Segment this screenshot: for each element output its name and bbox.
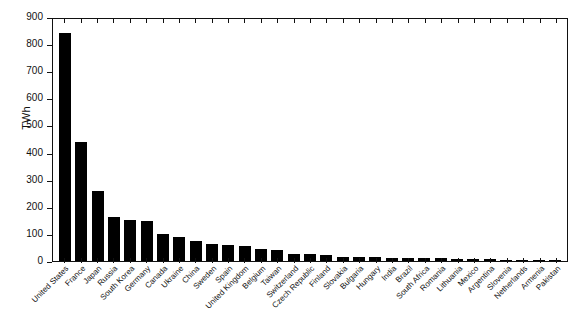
bar bbox=[271, 250, 283, 261]
bar bbox=[533, 260, 545, 261]
bar bbox=[255, 249, 267, 261]
bar-slot bbox=[302, 19, 318, 261]
x-axis-label-slot: Canada bbox=[154, 263, 170, 319]
bar-slot bbox=[155, 19, 171, 261]
bar bbox=[337, 257, 349, 261]
bar-slot bbox=[318, 19, 334, 261]
bar-slot bbox=[400, 19, 416, 261]
bar bbox=[190, 241, 202, 261]
bar-slot bbox=[384, 19, 400, 261]
bar bbox=[516, 260, 528, 261]
x-axis-label-slot: Germany bbox=[138, 263, 154, 319]
y-axis-tick-label: 400 bbox=[26, 147, 43, 158]
x-axis-labels: United StatesFranceJapanRussiaSouth Kore… bbox=[52, 263, 568, 319]
bar bbox=[75, 142, 87, 261]
bar bbox=[239, 246, 251, 261]
x-axis-label-slot: China bbox=[187, 263, 203, 319]
bar bbox=[304, 254, 316, 261]
bar-slot bbox=[122, 19, 138, 261]
y-axis-tick-label: 0 bbox=[37, 255, 43, 266]
bar-slot bbox=[139, 19, 155, 261]
bar bbox=[222, 245, 234, 261]
bar-slot bbox=[547, 19, 563, 261]
bar-slot bbox=[269, 19, 285, 261]
bar-slot bbox=[253, 19, 269, 261]
bar-slot bbox=[73, 19, 89, 261]
plot-area bbox=[52, 18, 568, 262]
x-axis-label-slot: United States bbox=[56, 263, 72, 319]
bar bbox=[549, 260, 561, 261]
bar-slot bbox=[367, 19, 383, 261]
bar-slot bbox=[204, 19, 220, 261]
bar-chart-figure: TWh 0100200300400500600700800900 United … bbox=[0, 0, 587, 319]
bar-slot bbox=[188, 19, 204, 261]
bar-slot bbox=[90, 19, 106, 261]
bar-slot bbox=[237, 19, 253, 261]
bar bbox=[386, 258, 398, 261]
x-axis-label-slot: Slovakia bbox=[335, 263, 351, 319]
x-axis-label-slot: Ukraine bbox=[171, 263, 187, 319]
bar bbox=[467, 259, 479, 261]
bar bbox=[402, 258, 414, 261]
bar-slot bbox=[335, 19, 351, 261]
y-axis-tick-label: 300 bbox=[26, 174, 43, 185]
bar-slot bbox=[416, 19, 432, 261]
bar bbox=[435, 258, 447, 261]
bar-slot bbox=[514, 19, 530, 261]
x-axis-label-slot: Lithuania bbox=[449, 263, 465, 319]
bar bbox=[320, 255, 332, 261]
y-axis-tick-label: 700 bbox=[26, 65, 43, 76]
bar-slot bbox=[498, 19, 514, 261]
bar-slot bbox=[220, 19, 236, 261]
bar-slot bbox=[449, 19, 465, 261]
y-axis-tick-label: 200 bbox=[26, 201, 43, 212]
bar-slot bbox=[433, 19, 449, 261]
bar-slot bbox=[531, 19, 547, 261]
bar bbox=[157, 234, 169, 261]
bar bbox=[173, 237, 185, 261]
y-axis-tick-label: 900 bbox=[26, 11, 43, 22]
x-axis-label-slot: United Kingdom bbox=[236, 263, 252, 319]
y-axis-tick-label: 600 bbox=[26, 92, 43, 103]
x-axis-label-slot: Pakistan bbox=[548, 263, 564, 319]
x-axis-tick-label: United States bbox=[30, 264, 70, 304]
y-axis-tick-label: 800 bbox=[26, 38, 43, 49]
bar-slot bbox=[465, 19, 481, 261]
bar bbox=[108, 217, 120, 261]
bar bbox=[369, 257, 381, 261]
bar-slot bbox=[171, 19, 187, 261]
x-axis-label-slot: Bulgaria bbox=[351, 263, 367, 319]
x-axis-label-slot: Czech Republic bbox=[302, 263, 318, 319]
y-axis-ticks: 0100200300400500600700800900 bbox=[0, 18, 52, 262]
bar bbox=[451, 259, 463, 261]
y-axis-tick-label: 500 bbox=[26, 119, 43, 130]
bar-series bbox=[53, 19, 567, 261]
bar-slot bbox=[57, 19, 73, 261]
bar bbox=[141, 221, 153, 261]
bar bbox=[484, 259, 496, 261]
bar bbox=[124, 220, 136, 261]
bar-slot bbox=[482, 19, 498, 261]
bar bbox=[59, 33, 71, 261]
bar bbox=[353, 257, 365, 261]
x-axis-label-slot: Netherlands bbox=[515, 263, 531, 319]
y-axis-tick-label: 100 bbox=[26, 228, 43, 239]
bar bbox=[418, 258, 430, 261]
bar bbox=[500, 260, 512, 261]
bar bbox=[92, 191, 104, 261]
x-axis-label-slot: Hungary bbox=[367, 263, 383, 319]
bar bbox=[206, 244, 218, 261]
bar-slot bbox=[286, 19, 302, 261]
bar bbox=[288, 254, 300, 261]
bar-slot bbox=[106, 19, 122, 261]
bar-slot bbox=[351, 19, 367, 261]
x-axis-label-slot: France bbox=[72, 263, 88, 319]
